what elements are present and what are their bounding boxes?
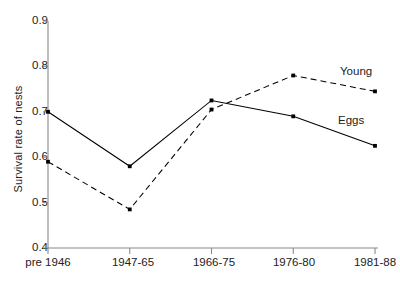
series-young-line (46, 74, 377, 212)
x-axis-ticks (48, 248, 375, 254)
survival-rate-line-chart: Survival rate of nests 0.9 0.8 0.7 0.6 0… (0, 0, 400, 285)
chart-plot-area (0, 0, 400, 285)
y-axis-ticks (43, 21, 48, 248)
